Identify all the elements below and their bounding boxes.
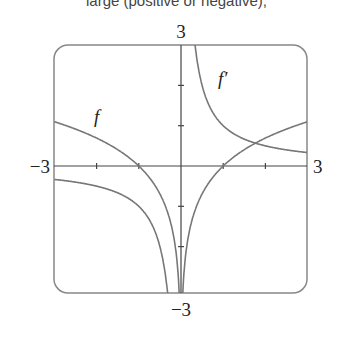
curve-fprime-right: [193, 25, 308, 153]
y-max-label: 3: [176, 21, 186, 42]
x-min-label: −3: [30, 156, 50, 177]
curve-f-left: [54, 122, 180, 307]
graph: 3 −3 −3 3 f f′: [0, 0, 344, 337]
fprime-label: f′: [218, 68, 228, 89]
f-label: f: [94, 106, 102, 127]
x-max-label: 3: [313, 156, 323, 177]
y-min-label: −3: [171, 299, 191, 320]
curve-fprime-left: [54, 179, 169, 307]
